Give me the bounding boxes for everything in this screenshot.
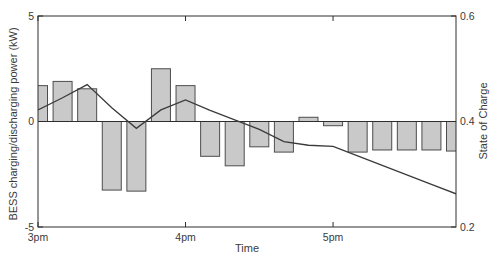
power-bar: [348, 122, 367, 153]
power-bar: [78, 89, 97, 122]
power-bar: [225, 122, 244, 166]
right-axis-title: State of Charge: [477, 82, 489, 159]
soc-line-group: [38, 85, 456, 194]
right-tick-label: 0.4: [460, 115, 475, 127]
power-bar: [324, 122, 343, 126]
right-tick-label: 0.6: [460, 10, 475, 22]
power-bar: [127, 122, 146, 192]
power-bar: [250, 122, 269, 147]
power-bar: [176, 86, 195, 122]
x-tick-label: 5pm: [323, 231, 344, 243]
power-bar: [397, 122, 416, 150]
power-bar: [151, 69, 170, 122]
left-tick-label: 5: [28, 10, 34, 22]
x-tick-label: 4pm: [175, 231, 196, 243]
power-bar: [422, 122, 441, 150]
bess-soc-chart: 3pm4pm5pm50-50.60.40.2 BESS charging/dis…: [0, 0, 497, 263]
right-tick-label: 0.2: [460, 221, 475, 233]
power-bar: [299, 117, 318, 121]
x-tick-label: 3pm: [28, 231, 49, 243]
soc-line: [38, 85, 456, 194]
left-tick-label: 0: [28, 115, 34, 127]
power-bar: [373, 122, 392, 150]
left-axis-title: BESS charging/discharging power (kW): [7, 27, 19, 220]
chart-canvas: 3pm4pm5pm50-50.60.40.2: [0, 0, 497, 263]
power-bar: [201, 122, 220, 157]
power-bar: [102, 122, 121, 191]
x-axis-title: Time: [235, 242, 259, 254]
left-tick-label: -5: [25, 221, 34, 233]
power-bar: [274, 122, 293, 153]
